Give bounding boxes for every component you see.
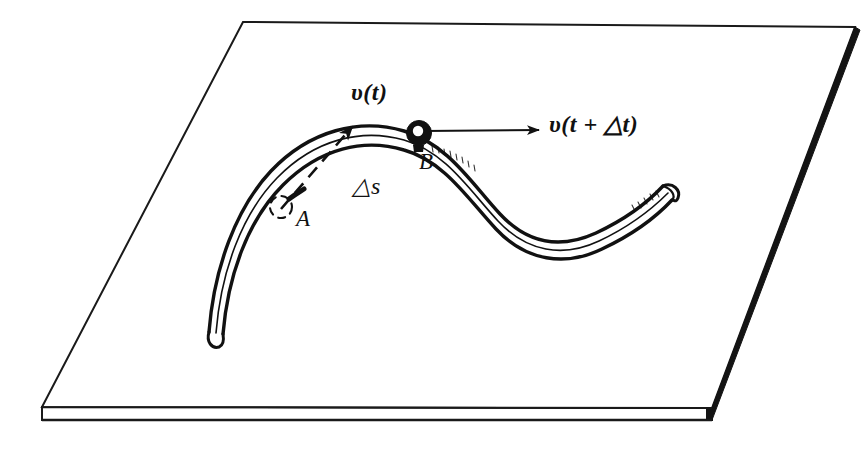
arc-length-label: △s xyxy=(352,174,381,198)
point-a-label: A xyxy=(296,207,310,230)
point-b-inner-hole xyxy=(413,126,423,136)
physics-figure: υ(t) υ(t + △t) △s A B xyxy=(0,0,865,449)
velocity-at-t-plus-dt-label: υ(t + △t) xyxy=(549,112,638,136)
velocity-at-t-label: υ(t) xyxy=(351,80,387,104)
slab-top-front-line xyxy=(42,407,712,408)
figure-canvas xyxy=(0,0,865,449)
slab-front-face xyxy=(42,407,712,420)
plane-slab-icon xyxy=(42,22,860,421)
point-b-label: B xyxy=(419,150,433,173)
plane-top-surface xyxy=(42,22,855,408)
solid-arrow-icon xyxy=(424,130,539,131)
velocity-t-plus-dt-vector xyxy=(424,130,539,131)
